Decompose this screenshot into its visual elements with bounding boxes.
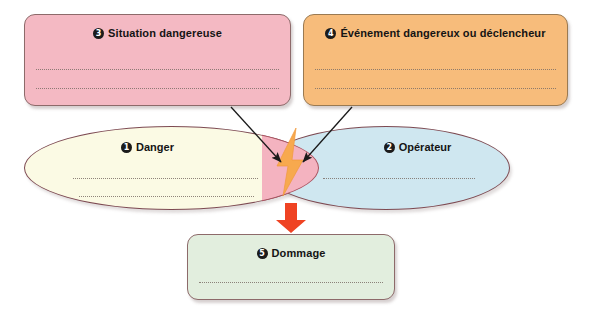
box-evenement-number: 4 (325, 28, 336, 39)
ellipse-danger-writing-line-2 (79, 196, 254, 197)
box-dommage-number: 5 (257, 248, 268, 259)
ellipse-danger-label: Danger (136, 141, 174, 153)
box-situation-title: 3Situation dangereuse (25, 27, 290, 39)
box-dommage[interactable]: 5Dommage (187, 234, 395, 300)
box-dommage-title: 5Dommage (188, 247, 394, 259)
ellipse-danger-number: 1 (121, 142, 132, 153)
ellipse-operateur[interactable]: 2Opérateur (262, 126, 510, 210)
box-dommage-label: Dommage (272, 247, 326, 259)
box-situation-label: Situation dangereuse (108, 27, 222, 39)
box-evenement-writing-line-1 (315, 69, 556, 70)
arrow-intersection-to-dommage (276, 203, 306, 233)
ellipse-operateur-writing-line-1 (323, 178, 475, 179)
box-situation-dangereuse[interactable]: 3Situation dangereuse (24, 14, 291, 106)
box-evenement-dangereux[interactable]: 4Événement dangereux ou déclencheur (303, 14, 568, 106)
box-dommage-writing-line-1 (199, 282, 383, 283)
diagram-canvas: 3Situation dangereuse 4Événement dangere… (0, 0, 589, 313)
ellipse-danger-title: 1Danger (25, 141, 270, 153)
box-situation-writing-line-1 (36, 69, 279, 70)
box-situation-writing-line-2 (36, 88, 279, 89)
ellipse-operateur-label: Opérateur (399, 141, 452, 153)
ellipse-operateur-title: 2Opérateur (325, 141, 510, 153)
box-situation-number: 3 (93, 28, 104, 39)
box-evenement-title: 4Événement dangereux ou déclencheur (304, 27, 567, 39)
box-evenement-writing-line-2 (315, 88, 556, 89)
box-evenement-label: Événement dangereux ou déclencheur (340, 27, 545, 39)
ellipse-operateur-number: 2 (384, 142, 395, 153)
ellipse-danger-writing-line-1 (73, 178, 258, 179)
